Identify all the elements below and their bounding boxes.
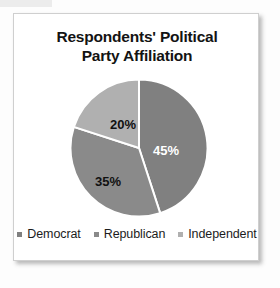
chart-title: Respondents' Political Party Affiliation (14, 27, 260, 65)
legend-swatch-icon (94, 232, 99, 237)
pie-slice-label-republican: 35% (95, 174, 121, 189)
chart-card: Respondents' Political Party Affiliation… (13, 13, 259, 261)
legend-item-independent[interactable]: Independent (178, 227, 256, 241)
legend-label: Republican (104, 227, 166, 241)
legend-label: Independent (188, 227, 256, 241)
chart-title-line-2: Party Affiliation (14, 46, 260, 65)
scan-artifact (0, 0, 52, 7)
pie-chart: 45%35%20% (70, 79, 208, 217)
legend-item-democrat[interactable]: Democrat (17, 227, 80, 241)
pie-slice-group (70, 80, 207, 217)
pie-slice-label-independent: 20% (110, 117, 136, 132)
legend-swatch-icon (17, 232, 22, 237)
chart-title-line-1: Respondents' Political (14, 27, 260, 46)
pie-slice-label-democrat: 45% (153, 143, 179, 158)
legend-item-republican[interactable]: Republican (94, 227, 166, 241)
chart-legend: DemocratRepublicanIndependent (14, 227, 260, 241)
legend-swatch-icon (178, 232, 183, 237)
legend-label: Democrat (27, 227, 80, 241)
pie-chart-svg: 45%35%20% (70, 79, 208, 217)
